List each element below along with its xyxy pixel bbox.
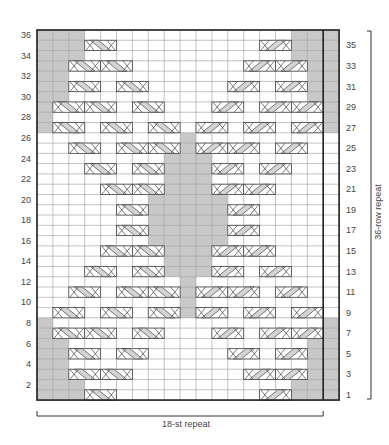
- shaded-cell: [53, 359, 69, 369]
- cable-cross-symbol: [117, 225, 149, 235]
- shaded-cell: [37, 359, 53, 369]
- cable-cross-symbol: [117, 143, 149, 153]
- cable-cross-symbol: [260, 266, 292, 276]
- cable-cross-symbol: [260, 40, 292, 50]
- cable-cross-symbol: [53, 102, 85, 112]
- shaded-cell: [323, 112, 339, 122]
- shaded-cell: [148, 205, 164, 215]
- cable-cross-symbol: [244, 246, 276, 256]
- shaded-cell: [37, 112, 53, 122]
- cable-cross-symbol: [276, 369, 308, 379]
- cable-cross-symbol: [228, 287, 260, 297]
- shaded-cell: [180, 215, 196, 225]
- shaded-cell: [212, 205, 228, 215]
- row-number-label: 10: [21, 297, 31, 307]
- cable-cross-symbol: [291, 308, 323, 318]
- shaded-cell: [180, 133, 196, 143]
- shaded-cell: [164, 164, 180, 174]
- right-row-labels: 1357911131517192123252729313335: [346, 40, 356, 400]
- row-number-label: 8: [26, 318, 31, 328]
- row-number-label: 25: [346, 143, 356, 153]
- shaded-cell: [37, 328, 53, 338]
- shaded-cell: [307, 51, 323, 61]
- shaded-cell: [53, 51, 69, 61]
- cable-cross-symbol: [244, 61, 276, 71]
- row-number-label: 9: [346, 308, 351, 318]
- cable-cross-symbol: [53, 308, 85, 318]
- shaded-cell: [37, 30, 53, 40]
- row-number-label: 4: [26, 359, 31, 369]
- row-number-label: 20: [21, 195, 31, 205]
- row-number-label: 34: [21, 51, 31, 61]
- cable-cross-symbol: [132, 266, 164, 276]
- shaded-cell: [196, 256, 212, 266]
- row-number-label: 27: [346, 123, 356, 133]
- shaded-cell: [307, 81, 323, 91]
- shaded-cell: [307, 338, 323, 348]
- row-number-label: 16: [21, 236, 31, 246]
- shaded-cell: [37, 51, 53, 61]
- cable-cross-symbol: [228, 81, 260, 91]
- shaded-cell: [196, 153, 212, 163]
- cable-cross-symbol: [212, 246, 244, 256]
- shaded-cell: [180, 236, 196, 246]
- shaded-cell: [196, 266, 212, 276]
- cable-cross-symbol: [228, 349, 260, 359]
- cable-cross-symbol: [212, 102, 244, 112]
- shaded-cell: [37, 380, 53, 390]
- row-number-label: 26: [21, 133, 31, 143]
- shaded-cell: [291, 390, 307, 400]
- shaded-cell: [323, 61, 339, 71]
- row-number-label: 11: [346, 287, 355, 297]
- cable-cross-symbol: [85, 328, 117, 338]
- cable-cross-symbol: [244, 308, 276, 318]
- cable-cross-symbol: [69, 81, 101, 91]
- cable-cross-symbol: [244, 123, 276, 133]
- shaded-cell: [196, 215, 212, 225]
- cable-cross-symbol: [260, 328, 292, 338]
- shaded-cell: [323, 71, 339, 81]
- shaded-cell: [164, 174, 180, 184]
- shaded-cell: [180, 277, 196, 287]
- row-number-label: 23: [346, 164, 356, 174]
- shaded-cell: [180, 256, 196, 266]
- cable-cross-symbol: [101, 61, 133, 71]
- row-number-label: 7: [346, 328, 351, 338]
- shaded-cell: [196, 194, 212, 204]
- shaded-cell: [37, 71, 53, 81]
- shaded-cell: [164, 205, 180, 215]
- cable-cross-symbol: [196, 143, 228, 153]
- cable-cross-symbol: [196, 123, 228, 133]
- cable-cross-symbol: [291, 328, 323, 338]
- shaded-cell: [164, 184, 180, 194]
- shaded-cell: [53, 92, 69, 102]
- shaded-cell: [53, 390, 69, 400]
- shaded-cell: [37, 318, 53, 328]
- shaded-cell: [53, 61, 69, 71]
- shaded-cell: [307, 390, 323, 400]
- cable-cross-symbol: [117, 81, 149, 91]
- shaded-cell: [180, 205, 196, 215]
- shaded-cell: [307, 40, 323, 50]
- row-number-label: 15: [346, 246, 356, 256]
- cable-cross-symbol: [69, 143, 101, 153]
- shaded-cell: [291, 380, 307, 390]
- row-number-label: 17: [346, 225, 356, 235]
- shaded-cell: [37, 123, 53, 133]
- cable-cross-symbol: [117, 349, 149, 359]
- shaded-cell: [164, 236, 180, 246]
- cable-cross-symbol: [148, 308, 180, 318]
- cable-cross-symbol: [69, 287, 101, 297]
- shaded-cell: [53, 30, 69, 40]
- shaded-cell: [148, 225, 164, 235]
- shaded-cell: [53, 349, 69, 359]
- shaded-cell: [180, 164, 196, 174]
- shaded-cell: [196, 164, 212, 174]
- cable-cross-symbol: [85, 40, 117, 50]
- cable-cross-symbol: [85, 390, 117, 400]
- row-number-label: 31: [346, 82, 356, 92]
- shaded-cell: [164, 266, 180, 276]
- shaded-cell: [37, 81, 53, 91]
- shaded-cell: [53, 380, 69, 390]
- row-number-label: 22: [21, 174, 31, 184]
